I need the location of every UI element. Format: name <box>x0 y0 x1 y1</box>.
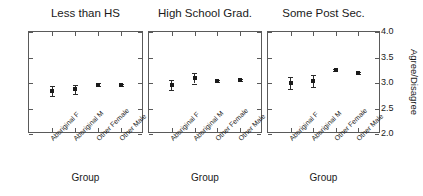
y-tick-mark <box>375 109 379 110</box>
x-tick-mark <box>291 32 292 36</box>
error-bar-cap <box>288 77 293 78</box>
y-tick-label: 2.0 <box>381 128 394 138</box>
y-tick-mark <box>149 109 153 110</box>
x-tick-labels: Aboriginal FAboriginal MOther FemaleOthe… <box>28 133 143 173</box>
error-bar-cap <box>73 94 78 95</box>
y-tick-mark <box>138 58 142 59</box>
panel-title: Less than HS <box>28 7 143 20</box>
y-tick-mark <box>138 83 142 84</box>
x-tick-mark <box>52 32 53 36</box>
data-marker <box>193 76 197 80</box>
y-tick-mark <box>268 109 272 110</box>
y-tick-mark <box>257 32 261 33</box>
data-marker <box>311 79 315 83</box>
y-tick-mark <box>138 109 142 110</box>
error-bar-cap <box>73 85 78 86</box>
y-tick-mark <box>149 32 153 33</box>
x-tick-mark <box>172 32 173 36</box>
x-tick-mark <box>75 32 76 36</box>
y-tick-label: 2.5 <box>381 103 394 113</box>
data-marker <box>73 87 77 91</box>
data-marker <box>238 78 242 82</box>
x-tick-mark <box>291 128 292 132</box>
y-tick-mark <box>375 32 379 33</box>
data-marker <box>356 71 360 75</box>
x-axis-title: Group <box>148 172 262 184</box>
x-tick-mark <box>240 32 241 36</box>
panel-title: Some Post Sec. <box>267 7 380 20</box>
chart-panel: Some Post Sec.Aboriginal FAboriginal MOt… <box>267 0 380 196</box>
y-tick-mark <box>257 58 261 59</box>
plot-area <box>28 31 143 133</box>
y-tick-mark <box>257 83 261 84</box>
y-tick-mark <box>375 83 379 84</box>
y-tick-mark <box>149 83 153 84</box>
y-axis-title: Agree/Disagree <box>407 31 421 133</box>
y-tick-mark <box>29 32 33 33</box>
y-tick-mark <box>257 109 261 110</box>
x-tick-mark <box>217 32 218 36</box>
x-tick-mark <box>195 32 196 36</box>
error-bar-cap <box>192 73 197 74</box>
x-axis-title: Group <box>28 172 143 184</box>
y-tick-label: 4.0 <box>381 26 394 36</box>
x-axis-title: Group <box>267 172 380 184</box>
x-tick-mark <box>358 32 359 36</box>
x-tick-labels: Aboriginal FAboriginal MOther FemaleOthe… <box>148 133 262 173</box>
chart-figure: Less than HSAboriginal FAboriginal MOthe… <box>0 0 423 196</box>
y-tick-mark <box>268 32 272 33</box>
data-marker <box>334 68 338 72</box>
y-tick-mark <box>268 83 272 84</box>
panel-title: High School Grad. <box>148 7 262 20</box>
x-tick-mark <box>313 32 314 36</box>
x-tick-mark <box>336 32 337 36</box>
error-bar-cap <box>50 86 55 87</box>
error-bar-cap <box>288 89 293 90</box>
y-tick-mark <box>29 58 33 59</box>
error-bar-cap <box>169 80 174 81</box>
chart-panel: Less than HSAboriginal FAboriginal MOthe… <box>28 0 143 196</box>
data-marker <box>96 83 100 87</box>
data-marker <box>289 81 293 85</box>
y-tick-mark <box>29 83 33 84</box>
error-bar-cap <box>50 96 55 97</box>
data-marker <box>119 83 123 87</box>
error-bar-cap <box>169 90 174 91</box>
y-tick-mark <box>268 58 272 59</box>
error-bar-cap <box>311 87 316 88</box>
y-axis: Agree/Disagree 4.03.53.02.52.0 <box>380 0 423 196</box>
plot-area <box>148 31 262 133</box>
y-tick-mark <box>29 109 33 110</box>
y-tick-label: 3.0 <box>381 77 394 87</box>
data-marker <box>215 79 219 83</box>
chart-panel: High School Grad.Aboriginal FAboriginal … <box>148 0 262 196</box>
data-marker <box>170 83 174 87</box>
error-bar-cap <box>192 84 197 85</box>
x-tick-mark <box>98 32 99 36</box>
y-tick-label: 3.5 <box>381 52 394 62</box>
x-tick-mark <box>195 128 196 132</box>
x-tick-labels: Aboriginal FAboriginal MOther FemaleOthe… <box>267 133 380 173</box>
data-marker <box>50 89 54 93</box>
error-bar-cap <box>311 75 316 76</box>
y-tick-mark <box>149 58 153 59</box>
y-tick-mark <box>138 32 142 33</box>
y-tick-mark <box>375 58 379 59</box>
x-tick-mark <box>121 32 122 36</box>
